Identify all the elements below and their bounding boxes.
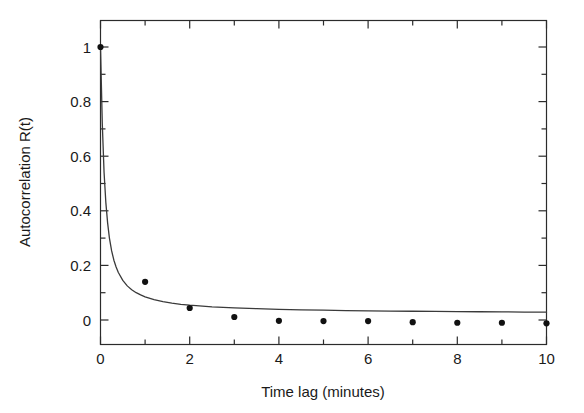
- x-tick-label: 2: [186, 350, 194, 367]
- y-tick-label: 0.4: [70, 202, 91, 219]
- y-tick-label: 0.8: [70, 93, 91, 110]
- x-tick-label: 4: [275, 350, 283, 367]
- data-point: [276, 318, 282, 324]
- y-tick-label: 0: [83, 312, 91, 329]
- chart-figure: 0246810 00.20.40.60.81 Time lag (minutes…: [0, 0, 584, 413]
- y-tick-label: 1: [83, 39, 91, 56]
- x-tick-label: 6: [364, 350, 372, 367]
- data-point: [365, 318, 371, 324]
- data-point: [231, 314, 237, 320]
- data-point: [320, 318, 326, 324]
- data-point: [187, 305, 193, 311]
- x-axis-title: Time lag (minutes): [261, 383, 385, 400]
- y-tick-label: 0.6: [70, 148, 91, 165]
- x-tick-label: 10: [538, 350, 555, 367]
- y-tick-label: 0.2: [70, 257, 91, 274]
- data-point: [142, 279, 148, 285]
- chart-canvas: 0246810 00.20.40.60.81 Time lag (minutes…: [0, 0, 584, 413]
- x-tick-label: 0: [96, 350, 104, 367]
- x-tick-label: 8: [453, 350, 461, 367]
- data-point: [454, 320, 460, 326]
- y-axis-title: Autocorrelation R(t): [16, 117, 33, 247]
- data-point: [97, 44, 103, 50]
- data-point: [499, 320, 505, 326]
- data-point: [543, 320, 549, 326]
- data-point: [410, 319, 416, 325]
